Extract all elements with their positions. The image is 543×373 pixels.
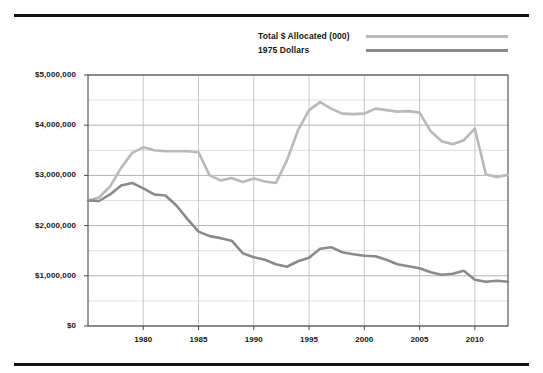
plot-canvas (0, 0, 543, 373)
y-axis-tick-label: $2,000,000 (14, 221, 76, 230)
y-axis-tick-label: $1,000,000 (14, 271, 76, 280)
y-axis-tick-label: $0 (14, 321, 76, 330)
y-axis-tick-label: $5,000,000 (14, 70, 76, 79)
x-axis-tick-label: 2005 (400, 335, 440, 344)
line-chart: $0$1,000,000$2,000,000$3,000,000$4,000,0… (0, 0, 543, 373)
y-axis-tick-label: $4,000,000 (14, 120, 76, 129)
x-axis-tick-label: 2000 (344, 335, 384, 344)
x-axis-tick-label: 1980 (123, 335, 163, 344)
x-axis-tick-label: 2010 (455, 335, 495, 344)
x-axis-tick-label: 1995 (289, 335, 329, 344)
x-axis-tick-label: 1985 (179, 335, 219, 344)
y-axis-tick-label: $3,000,000 (14, 170, 76, 179)
chart-page: Total $ Allocated (000) 1975 Dollars $0$… (0, 0, 543, 373)
x-axis-tick-label: 1990 (234, 335, 274, 344)
